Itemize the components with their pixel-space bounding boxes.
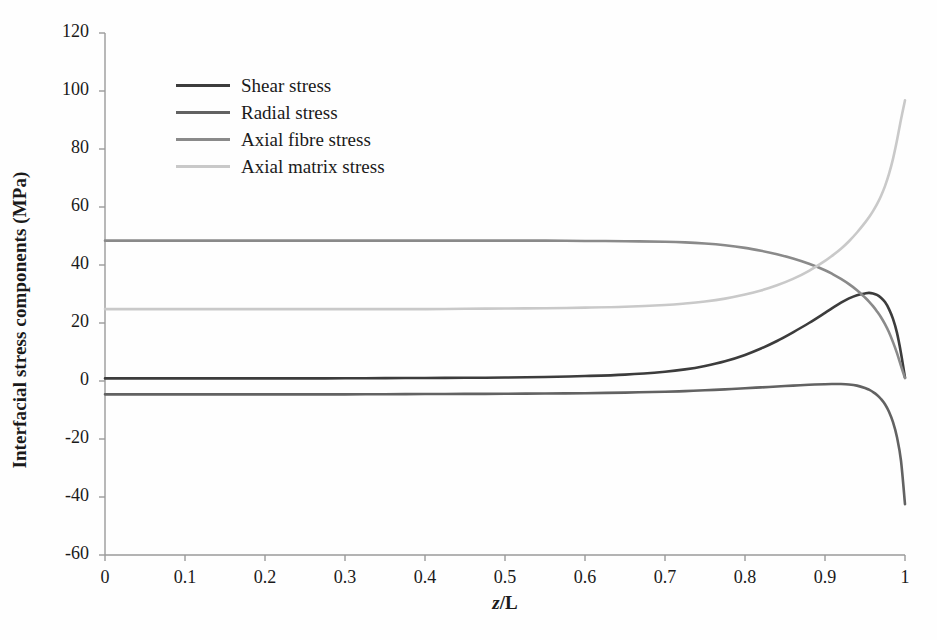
legend-line-swatch xyxy=(176,111,230,114)
series-line xyxy=(105,384,905,504)
series-line xyxy=(105,293,905,379)
legend-item[interactable]: Radial stress xyxy=(176,99,385,126)
legend-item[interactable]: Shear stress xyxy=(176,72,385,99)
legend-item-label: Axial fibre stress xyxy=(241,130,371,149)
plot-area xyxy=(0,0,937,640)
legend-line-swatch xyxy=(176,165,230,168)
chart-legend: Shear stressRadial stressAxial fibre str… xyxy=(176,72,385,180)
legend-line-swatch xyxy=(176,84,230,87)
chart-figure: Interfacial stress components (MPa) z/L … xyxy=(0,0,937,640)
legend-item[interactable]: Axial matrix stress xyxy=(176,153,385,180)
legend-item-label: Radial stress xyxy=(241,103,338,122)
legend-item[interactable]: Axial fibre stress xyxy=(176,126,385,153)
legend-item-label: Shear stress xyxy=(241,76,331,95)
legend-line-swatch xyxy=(176,138,230,141)
legend-item-label: Axial matrix stress xyxy=(241,157,385,176)
